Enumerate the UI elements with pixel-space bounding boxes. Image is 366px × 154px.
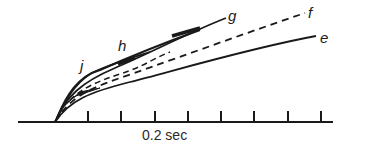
axis-ticks bbox=[88, 111, 321, 122]
curve-label-f: f bbox=[308, 5, 312, 20]
axis-scale-label: 0.2 sec bbox=[142, 128, 187, 142]
curve-label-g: g bbox=[228, 8, 236, 23]
curve-label-e: e bbox=[320, 30, 328, 45]
curve-label-j: j bbox=[80, 58, 83, 73]
curve-label-h: h bbox=[118, 38, 126, 53]
diagram: e f g h j 0.2 sec bbox=[0, 0, 366, 154]
curve-f bbox=[55, 13, 305, 122]
curve-h bbox=[57, 30, 200, 118]
curve-j bbox=[55, 52, 150, 122]
